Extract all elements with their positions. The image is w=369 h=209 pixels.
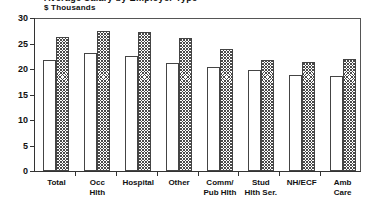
bar-hatched: [97, 31, 110, 171]
bar-open: [207, 67, 220, 171]
x-axis-tick: [75, 172, 76, 176]
y-axis-tick: [30, 69, 34, 70]
y-axis-tick: [30, 95, 34, 96]
x-axis-category-label: Total: [47, 178, 66, 188]
bar-hatched: [261, 60, 274, 171]
plot-area: [34, 18, 361, 172]
x-axis-category-label: NH/ECF: [287, 178, 317, 188]
bar-hatched: [220, 49, 233, 171]
bar-open: [289, 75, 302, 171]
bar-group: [125, 32, 151, 171]
x-axis-category-label: Hospital: [122, 178, 154, 188]
x-axis-tick: [279, 172, 280, 176]
bar-group: [166, 38, 192, 171]
x-axis-category-label: Occ Hlth: [90, 178, 106, 197]
bar-group: [84, 31, 110, 171]
y-axis-tick-label: 30: [2, 13, 28, 23]
plot-frame-right: [360, 18, 361, 172]
y-axis-tick: [30, 120, 34, 121]
y-axis-tick-label: 10: [2, 115, 28, 125]
y-axis-tick-label: 25: [2, 39, 28, 49]
bar-hatched: [179, 38, 192, 171]
bar-hatched: [343, 59, 356, 171]
bar-group: [248, 60, 274, 171]
x-axis-tick: [116, 172, 117, 176]
y-axis-tick: [30, 146, 34, 147]
bar-open: [43, 60, 56, 171]
y-axis-tick-label: 5: [2, 141, 28, 151]
x-axis-tick: [198, 172, 199, 176]
x-axis-category-label: Other: [168, 178, 189, 188]
bar-hatched: [138, 32, 151, 171]
plot-frame-top: [34, 18, 361, 19]
y-axis-tick: [30, 18, 34, 19]
bar-open: [248, 70, 261, 171]
bar-open: [330, 76, 343, 171]
bar-group: [289, 62, 315, 171]
bar-group: [207, 49, 233, 171]
x-axis-tick: [320, 172, 321, 176]
x-axis-tick: [238, 172, 239, 176]
bar-hatched: [302, 62, 315, 171]
y-axis-tick: [30, 44, 34, 45]
y-axis-line: [34, 18, 35, 172]
bar-chart: Average Salary by Employer Type $ Thousa…: [0, 0, 369, 209]
x-axis-category-label: Stud Hlth Ser.: [245, 178, 277, 197]
bar-open: [166, 63, 179, 171]
x-axis-category-label: Amb Care: [334, 178, 352, 197]
y-axis-tick-label: 15: [2, 90, 28, 100]
bar-group: [330, 59, 356, 171]
y-axis-tick-label: 0: [2, 166, 28, 176]
y-axis-unit-label: $ Thousands: [44, 3, 96, 12]
bar-open: [84, 53, 97, 171]
bar-open: [125, 56, 138, 171]
y-axis-tick-label: 20: [2, 64, 28, 74]
bar-hatched: [56, 37, 69, 171]
y-axis-tick: [30, 171, 34, 172]
x-axis-tick: [157, 172, 158, 176]
x-axis-category-label: Comm/ Pub Hlth: [203, 178, 236, 197]
bar-group: [43, 37, 69, 171]
